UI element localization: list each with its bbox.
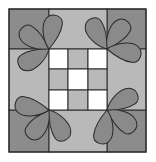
center-cell bbox=[88, 49, 107, 69]
center-cell bbox=[88, 90, 107, 110]
center-cell bbox=[68, 69, 88, 90]
center-cell bbox=[49, 69, 68, 90]
center-cell bbox=[49, 49, 68, 69]
center-cell bbox=[88, 69, 107, 90]
center-cell bbox=[49, 90, 68, 110]
center-checkerboard bbox=[49, 49, 107, 110]
center-cell bbox=[68, 90, 88, 110]
quilt-block-diagram bbox=[0, 0, 156, 162]
center-cell bbox=[68, 49, 88, 69]
